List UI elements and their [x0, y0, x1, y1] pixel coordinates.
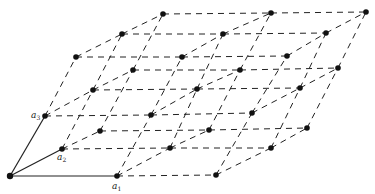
lattice-point	[323, 30, 329, 36]
lattice-edge	[170, 89, 197, 148]
lattice-point	[160, 11, 166, 17]
lattice-edge	[209, 128, 307, 130]
lattice-point	[194, 86, 200, 92]
lattice-edge	[133, 14, 163, 70]
lattice-edge	[62, 131, 100, 149]
lattice-edge	[338, 12, 366, 68]
lattice-edge	[223, 13, 271, 34]
lattice-edge	[216, 113, 252, 175]
lattice-edge	[252, 56, 287, 113]
lattice-point	[73, 54, 79, 60]
basis-label-a2: a2	[57, 152, 66, 163]
lattice-edge	[45, 115, 151, 116]
lattice-edge	[307, 68, 338, 128]
lattice-point	[249, 110, 255, 116]
lattice-point	[42, 113, 48, 119]
lattice-edge	[163, 13, 271, 14]
lattice-point	[114, 173, 120, 179]
lattice-point	[304, 125, 310, 131]
lattice-edge	[122, 14, 163, 34]
lattice-edge	[182, 34, 223, 57]
lattice-edge	[100, 130, 209, 131]
lattice-point	[335, 65, 341, 71]
lattice-edge	[62, 148, 170, 149]
lattice-diagram: a1a2a3	[0, 0, 375, 194]
lattice-point	[363, 9, 369, 15]
lattice-edge	[182, 56, 287, 57]
lattice-point	[268, 10, 274, 16]
lattice-edge	[209, 70, 240, 130]
lattice-edge	[117, 115, 151, 176]
lattice-point	[297, 85, 303, 91]
lattice-edge	[271, 88, 300, 148]
lattice-point	[220, 31, 226, 37]
lattice-edge	[223, 33, 326, 34]
lattice-point	[130, 67, 136, 73]
lattice-edge	[197, 34, 223, 89]
lattice-point	[97, 128, 103, 134]
lattice-dashed-edges	[45, 12, 366, 176]
lattice-edge	[100, 70, 133, 131]
lattice-point	[59, 146, 65, 152]
basis-labels: a1a2a3	[31, 110, 121, 192]
lattice-edge	[197, 88, 300, 89]
lattice-point	[213, 172, 219, 178]
lattice-point	[119, 31, 125, 37]
lattice-edge	[76, 34, 122, 57]
lattice-edge	[93, 89, 197, 90]
lattice-point	[284, 53, 290, 59]
lattice-edge	[93, 70, 133, 90]
lattice-edge	[151, 57, 182, 115]
lattice-point	[167, 145, 173, 151]
lattice-point	[90, 87, 96, 93]
lattice-edge	[197, 70, 240, 89]
lattice-point	[179, 54, 185, 60]
lattice-point	[206, 127, 212, 133]
lattice-edge	[93, 34, 122, 90]
lattice-edge	[271, 12, 366, 13]
lattice-edge	[271, 128, 307, 148]
basis-label-a3: a3	[31, 110, 40, 121]
lattice-point	[148, 112, 154, 118]
lattice-edge	[151, 113, 252, 115]
lattice-edge	[240, 68, 338, 70]
lattice-point	[268, 145, 274, 151]
lattice-edge	[240, 13, 271, 70]
lattice-edge	[300, 33, 326, 88]
origin-point	[7, 173, 13, 179]
basis-label-a1: a1	[112, 181, 121, 192]
lattice-edge	[326, 12, 366, 33]
lattice-edge	[170, 130, 209, 148]
lattice-svg: a1a2a3	[0, 0, 375, 194]
lattice-edge	[45, 57, 76, 116]
lattice-edge	[117, 175, 216, 176]
lattice-point	[237, 67, 243, 73]
